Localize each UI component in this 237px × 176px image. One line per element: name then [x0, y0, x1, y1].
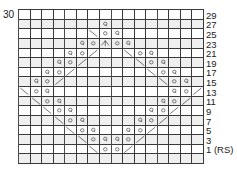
chart-cell-r0-c10[interactable]: [134, 10, 146, 20]
chart-cell-r2-c2[interactable]: [42, 29, 54, 39]
chart-cell-r5-c10[interactable]: [134, 58, 146, 68]
chart-cell-r3-c3[interactable]: [53, 38, 65, 48]
chart-cell-r12-c13[interactable]: [169, 125, 181, 135]
chart-cell-r14-c8[interactable]: [111, 144, 123, 154]
chart-cell-r7-c1[interactable]: [30, 77, 42, 87]
chart-cell-r15-c2[interactable]: [42, 154, 54, 164]
chart-cell-r15-c14[interactable]: [180, 154, 192, 164]
chart-cell-r13-c2[interactable]: [42, 135, 54, 145]
chart-cell-r9-c3[interactable]: [53, 96, 65, 106]
chart-cell-r13-c11[interactable]: [146, 135, 158, 145]
chart-cell-r11-c13[interactable]: [169, 115, 181, 125]
chart-cell-r3-c14[interactable]: [180, 38, 192, 48]
chart-cell-r0-c4[interactable]: [65, 10, 77, 20]
chart-cell-r3-c10[interactable]: [134, 38, 146, 48]
chart-cell-r7-c8[interactable]: [111, 77, 123, 87]
chart-cell-r10-c2[interactable]: [42, 106, 54, 116]
chart-cell-r13-c14[interactable]: [180, 135, 192, 145]
chart-cell-r1-c15[interactable]: [192, 19, 204, 29]
chart-cell-r3-c5[interactable]: [76, 38, 88, 48]
chart-cell-r14-c4[interactable]: [65, 144, 77, 154]
chart-cell-r9-c7[interactable]: [99, 96, 111, 106]
chart-cell-r6-c13[interactable]: [169, 67, 181, 77]
chart-cell-r1-c0[interactable]: [19, 19, 31, 29]
chart-cell-r13-c7[interactable]: [99, 135, 111, 145]
chart-cell-r4-c6[interactable]: [88, 48, 100, 58]
chart-cell-r11-c5[interactable]: [76, 115, 88, 125]
chart-cell-r13-c10[interactable]: [134, 135, 146, 145]
chart-cell-r15-c1[interactable]: [30, 154, 42, 164]
chart-cell-r8-c4[interactable]: [65, 87, 77, 97]
chart-cell-r5-c14[interactable]: [180, 58, 192, 68]
chart-cell-r8-c1[interactable]: [30, 87, 42, 97]
chart-cell-r0-c15[interactable]: [192, 10, 204, 20]
chart-cell-r12-c0[interactable]: [19, 125, 31, 135]
chart-cell-r9-c10[interactable]: [134, 96, 146, 106]
chart-cell-r2-c6[interactable]: [88, 29, 100, 39]
chart-cell-r6-c7[interactable]: [99, 67, 111, 77]
chart-cell-r4-c11[interactable]: [146, 48, 158, 58]
chart-cell-r14-c10[interactable]: [134, 144, 146, 154]
chart-cell-r15-c12[interactable]: [157, 154, 169, 164]
chart-cell-r3-c6[interactable]: [88, 38, 100, 48]
chart-cell-r12-c6[interactable]: [88, 125, 100, 135]
chart-cell-r4-c9[interactable]: [123, 48, 135, 58]
chart-cell-r9-c14[interactable]: [180, 96, 192, 106]
chart-cell-r1-c5[interactable]: [76, 19, 88, 29]
chart-cell-r10-c14[interactable]: [180, 106, 192, 116]
chart-cell-r11-c10[interactable]: [134, 115, 146, 125]
chart-cell-r12-c7[interactable]: [99, 125, 111, 135]
chart-cell-r10-c11[interactable]: [146, 106, 158, 116]
chart-cell-r12-c10[interactable]: [134, 125, 146, 135]
chart-cell-r12-c12[interactable]: [157, 125, 169, 135]
chart-cell-r6-c2[interactable]: [42, 67, 54, 77]
chart-cell-r8-c10[interactable]: [134, 87, 146, 97]
chart-cell-r10-c15[interactable]: [192, 106, 204, 116]
chart-cell-r3-c4[interactable]: [65, 38, 77, 48]
chart-cell-r14-c14[interactable]: [180, 144, 192, 154]
chart-cell-r10-c3[interactable]: [53, 106, 65, 116]
chart-cell-r4-c7[interactable]: [99, 48, 111, 58]
chart-cell-r15-c15[interactable]: [192, 154, 204, 164]
chart-cell-r4-c0[interactable]: [19, 48, 31, 58]
chart-cell-r14-c9[interactable]: [123, 144, 135, 154]
chart-cell-r1-c4[interactable]: [65, 19, 77, 29]
chart-cell-r12-c5[interactable]: [76, 125, 88, 135]
chart-cell-r9-c1[interactable]: [30, 96, 42, 106]
chart-cell-r7-c2[interactable]: [42, 77, 54, 87]
chart-cell-r8-c6[interactable]: [88, 87, 100, 97]
chart-cell-r4-c2[interactable]: [42, 48, 54, 58]
chart-cell-r2-c4[interactable]: [65, 29, 77, 39]
chart-cell-r5-c5[interactable]: [76, 58, 88, 68]
chart-cell-r14-c6[interactable]: [88, 144, 100, 154]
chart-cell-r5-c4[interactable]: [65, 58, 77, 68]
chart-cell-r11-c11[interactable]: [146, 115, 158, 125]
chart-cell-r2-c5[interactable]: [76, 29, 88, 39]
chart-cell-r7-c14[interactable]: [180, 77, 192, 87]
chart-cell-r5-c9[interactable]: [123, 58, 135, 68]
chart-cell-r11-c4[interactable]: [65, 115, 77, 125]
chart-cell-r4-c5[interactable]: [76, 48, 88, 58]
chart-cell-r9-c0[interactable]: [19, 96, 31, 106]
chart-cell-r0-c3[interactable]: [53, 10, 65, 20]
chart-cell-r7-c13[interactable]: [169, 77, 181, 87]
chart-cell-r13-c5[interactable]: [76, 135, 88, 145]
chart-cell-r11-c14[interactable]: [180, 115, 192, 125]
chart-cell-r14-c1[interactable]: [30, 144, 42, 154]
chart-cell-r5-c8[interactable]: [111, 58, 123, 68]
chart-cell-r8-c11[interactable]: [146, 87, 158, 97]
chart-cell-r11-c3[interactable]: [53, 115, 65, 125]
chart-cell-r9-c6[interactable]: [88, 96, 100, 106]
chart-cell-r13-c15[interactable]: [192, 135, 204, 145]
chart-cell-r2-c1[interactable]: [30, 29, 42, 39]
chart-cell-r13-c3[interactable]: [53, 135, 65, 145]
chart-cell-r13-c4[interactable]: [65, 135, 77, 145]
chart-cell-r6-c15[interactable]: [192, 67, 204, 77]
chart-cell-r13-c0[interactable]: [19, 135, 31, 145]
chart-cell-r0-c12[interactable]: [157, 10, 169, 20]
chart-cell-r1-c1[interactable]: [30, 19, 42, 29]
chart-cell-r10-c7[interactable]: [99, 106, 111, 116]
chart-cell-r8-c8[interactable]: [111, 87, 123, 97]
chart-cell-r6-c5[interactable]: [76, 67, 88, 77]
chart-cell-r14-c5[interactable]: [76, 144, 88, 154]
